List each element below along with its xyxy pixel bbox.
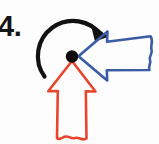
pivot-point-dot [66, 50, 78, 62]
rotation-arc-group [38, 21, 107, 77]
red-vector-group [48, 61, 95, 139]
red-arrow-outline [48, 61, 95, 139]
blue-arrow-outline [79, 32, 152, 81]
blue-vector-group [79, 32, 152, 81]
vector-diagram-svg [0, 0, 159, 144]
figure-canvas: 4. [0, 0, 159, 144]
